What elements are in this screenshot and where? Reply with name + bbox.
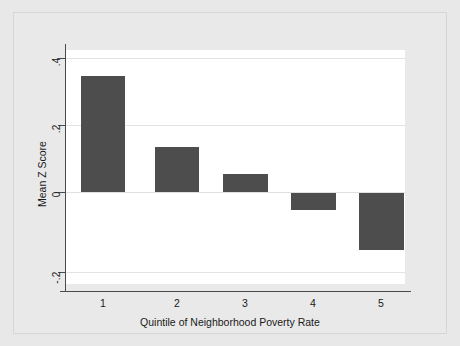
x-tick-label-1: 1: [83, 297, 123, 309]
x-tick-label-3: 3: [225, 297, 265, 309]
y-axis-title: Mean Z Score: [36, 114, 48, 234]
x-tick-label-4: 4: [293, 297, 333, 309]
x-axis-line: [60, 291, 411, 292]
gridline--0.2: [66, 272, 405, 273]
x-tick-label-2: 2: [157, 297, 197, 309]
bar-quintile-3[interactable]: [223, 174, 268, 192]
x-axis-title: Quintile of Neighborhood Poverty Rate: [0, 316, 460, 328]
gridline-zero: [66, 192, 405, 193]
bar-quintile-1[interactable]: [81, 76, 125, 192]
y-tick-label--0.2: -.2: [51, 272, 62, 298]
chart-figure: .4 .2 0 -.2 Mean Z Score 1 2 3 4 5 Quint…: [0, 0, 460, 346]
y-tick-label-0.4: .4: [51, 58, 62, 84]
x-tick-label-5: 5: [361, 297, 401, 309]
bar-quintile-4[interactable]: [291, 193, 336, 210]
bar-quintile-5[interactable]: [359, 193, 404, 250]
plot-area: [66, 50, 405, 284]
y-tick-label-0: 0: [51, 192, 62, 218]
bar-quintile-2[interactable]: [155, 147, 199, 192]
gridline-0.4: [66, 58, 405, 59]
y-axis-line: [65, 44, 66, 292]
y-tick-label-0.2: .2: [51, 125, 62, 151]
